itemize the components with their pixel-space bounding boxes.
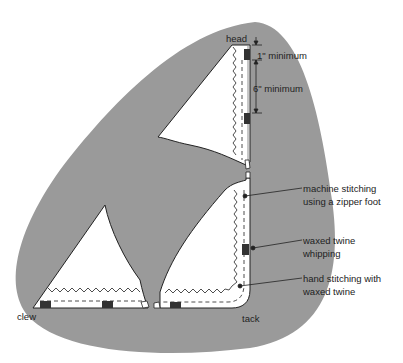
whipping-mark bbox=[244, 49, 250, 60]
whipping-mark bbox=[244, 113, 250, 124]
head-label: head bbox=[226, 33, 247, 44]
callout-machine-stitching-line1: machine stitching bbox=[303, 183, 376, 194]
callout-hand-stitching-line1: hand stitching with bbox=[303, 273, 381, 284]
callout-hand-stitching-line2: waxed twine bbox=[302, 286, 355, 297]
callout-whipping-line1: waxed twine bbox=[302, 235, 355, 246]
whipping-mark bbox=[40, 301, 51, 308]
whipping-mark bbox=[170, 302, 181, 308]
clew-label: clew bbox=[17, 311, 36, 322]
whipping-mark bbox=[102, 301, 113, 308]
callout-whipping-line2: whipping bbox=[302, 248, 341, 259]
callout-machine-stitching-line2: using a zipper foot bbox=[303, 196, 381, 207]
dimension-6in-label: 6" minimum bbox=[253, 83, 303, 94]
whipping-mark bbox=[242, 244, 249, 255]
tack-label: tack bbox=[242, 313, 260, 324]
dimension-1in-label: 1" minimum bbox=[257, 50, 307, 61]
sail-boltrope-diagram: head clew tack 1" minimum 6" minimum mac… bbox=[0, 0, 403, 363]
